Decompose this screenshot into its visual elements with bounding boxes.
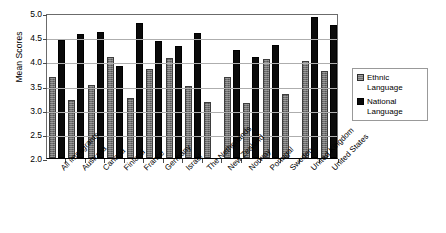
national-language-swatch-icon bbox=[357, 98, 364, 105]
y-axis-tick-label: 4.0 bbox=[14, 58, 42, 67]
bar-ethnic-language bbox=[263, 59, 270, 158]
bar-ethnic-language bbox=[68, 100, 75, 158]
gridline bbox=[47, 63, 337, 64]
bar-national-language bbox=[58, 40, 65, 158]
bar-national-language bbox=[155, 41, 162, 158]
gridline bbox=[47, 39, 337, 40]
bar-ethnic-language bbox=[282, 94, 289, 158]
legend-label-ethnic-line2: Language bbox=[367, 83, 403, 92]
y-axis-tick-labels: 5.04.54.03.53.02.52.0 bbox=[14, 14, 42, 159]
x-axis-tick-marks bbox=[46, 159, 338, 164]
bar-national-language bbox=[194, 33, 201, 158]
y-axis-tick-mark bbox=[43, 63, 47, 64]
bar-ethnic-language bbox=[49, 77, 56, 158]
gridline bbox=[47, 112, 337, 113]
legend-label-national-line2: Language bbox=[367, 107, 403, 116]
bar-ethnic-language bbox=[185, 86, 192, 158]
x-axis-tick-mark bbox=[260, 159, 261, 163]
bar-ethnic-language bbox=[224, 77, 231, 158]
bar-ethnic-language bbox=[166, 58, 173, 158]
bar-national-language bbox=[252, 57, 259, 159]
bar-national-language bbox=[97, 32, 104, 158]
x-axis-tick-mark bbox=[280, 159, 281, 163]
x-axis-tick-mark bbox=[143, 159, 144, 163]
x-axis-tick-mark bbox=[202, 159, 203, 163]
gridline bbox=[47, 136, 337, 137]
y-axis-tick-label: 5.0 bbox=[14, 10, 42, 19]
bar-ethnic-language bbox=[321, 71, 328, 158]
x-axis-tick-mark bbox=[85, 159, 86, 163]
x-axis-tick-mark bbox=[182, 159, 183, 163]
bar-ethnic-language bbox=[302, 61, 309, 158]
chart-legend: Ethnic Language National Language bbox=[352, 68, 428, 121]
legend-item-ethnic-language: Ethnic Language bbox=[357, 73, 424, 92]
x-axis-tick-mark bbox=[299, 159, 300, 163]
y-axis-tick-mark bbox=[43, 88, 47, 89]
y-axis-tick-mark bbox=[43, 112, 47, 113]
bar-ethnic-language bbox=[107, 57, 114, 158]
legend-label-ethnic-line1: Ethnic bbox=[367, 73, 389, 82]
x-axis-tick-mark bbox=[221, 159, 222, 163]
legend-label-national-language: National Language bbox=[367, 97, 403, 116]
bar-chart: Mean Scores 5.04.54.03.53.02.52.0 All im… bbox=[0, 0, 446, 233]
y-axis-tick-label: 2.0 bbox=[14, 155, 42, 164]
plot-area bbox=[46, 14, 338, 159]
bar-national-language bbox=[330, 25, 337, 158]
x-axis-tick-mark bbox=[338, 159, 339, 163]
legend-label-national-line1: National bbox=[367, 97, 396, 106]
y-axis-tick-label: 3.0 bbox=[14, 106, 42, 115]
x-axis-tick-mark bbox=[124, 159, 125, 163]
x-axis-tick-mark bbox=[241, 159, 242, 163]
y-axis-tick-mark bbox=[43, 136, 47, 137]
y-axis-tick-label: 2.5 bbox=[14, 131, 42, 140]
x-axis-tick-mark bbox=[319, 159, 320, 163]
ethnic-language-swatch-icon bbox=[357, 74, 364, 81]
x-axis-tick-mark bbox=[65, 159, 66, 163]
bar-ethnic-language bbox=[88, 85, 95, 158]
legend-item-national-language: National Language bbox=[357, 97, 424, 116]
bar-national-language bbox=[272, 45, 279, 158]
bar-national-language bbox=[233, 50, 240, 158]
bar-national-language bbox=[136, 23, 143, 158]
x-axis-tick-mark bbox=[163, 159, 164, 163]
legend-label-ethnic-language: Ethnic Language bbox=[367, 73, 403, 92]
y-axis-tick-mark bbox=[43, 39, 47, 40]
x-axis-tick-mark bbox=[104, 159, 105, 163]
y-axis-tick-label: 3.5 bbox=[14, 82, 42, 91]
bar-national-language bbox=[77, 34, 84, 158]
y-axis-tick-label: 4.5 bbox=[14, 34, 42, 43]
bar-ethnic-language bbox=[146, 69, 153, 158]
gridline bbox=[47, 88, 337, 89]
y-axis-tick-mark bbox=[43, 15, 47, 16]
bar-ethnic-language bbox=[127, 98, 134, 158]
